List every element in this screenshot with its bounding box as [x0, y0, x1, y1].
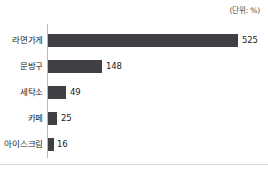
bar-row: 아이스크림 16 [0, 138, 268, 151]
plot-area: 라면가게 525 문방구 148 세탁소 49 카페 25 아이스크림 16 [0, 24, 268, 158]
unit-caption: (단위: %) [230, 4, 261, 15]
bar-chart: (단위: %) 라면가게 525 문방구 148 세탁소 49 카페 25 [0, 0, 268, 170]
bar [48, 60, 102, 73]
category-label: 카페 [0, 112, 43, 125]
bar-row: 카페 25 [0, 112, 268, 125]
bottom-rule [0, 164, 268, 165]
bar [48, 86, 66, 99]
bar-value-label: 25 [61, 112, 71, 125]
bar-value-label: 16 [57, 138, 67, 151]
bar-row: 세탁소 49 [0, 86, 268, 99]
bar-value-label: 49 [70, 86, 80, 99]
category-label: 문방구 [0, 60, 43, 73]
bar-row: 문방구 148 [0, 60, 268, 73]
category-label: 아이스크림 [0, 138, 43, 151]
category-label: 세탁소 [0, 86, 43, 99]
bar [48, 138, 54, 151]
bar-row: 라면가게 525 [0, 34, 268, 47]
category-label: 라면가게 [0, 34, 43, 47]
bar-value-label: 148 [106, 60, 122, 73]
bar-value-label: 525 [242, 34, 258, 47]
bar [48, 34, 238, 47]
bar [48, 112, 57, 125]
